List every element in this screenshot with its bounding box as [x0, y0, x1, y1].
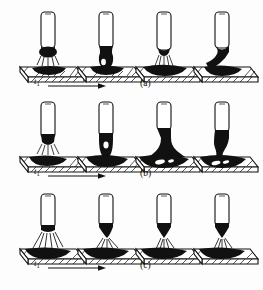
frame-a-3 — [130, 10, 194, 86]
frame-a-1 — [14, 10, 78, 86]
caption-line-b: t1 (b) — [0, 166, 263, 188]
frame-a-4 — [188, 10, 252, 86]
time-arrow-c — [48, 264, 110, 272]
sequence-row-a: t1 (a) — [0, 0, 263, 96]
frame-c-4 — [188, 192, 252, 268]
time-label-a: t1 — [34, 76, 40, 89]
time-label-c: t1 — [34, 258, 40, 271]
frame-b-2 — [72, 100, 136, 176]
frame-c-1 — [14, 192, 78, 268]
frame-b-3 — [130, 100, 194, 176]
frame-b-4 — [188, 100, 252, 176]
row-label-b: (b) — [140, 167, 151, 179]
frame-b-4-drawing — [188, 100, 262, 176]
time-arrow-b — [48, 172, 110, 180]
frame-c-2 — [72, 192, 136, 268]
frame-c-3 — [130, 192, 194, 268]
frame-a-2 — [72, 10, 136, 86]
welding-metal-transfer-figure: t1 (a) — [0, 0, 263, 290]
caption-line-c: t1 (c) — [0, 258, 263, 280]
sequence-row-c: t1 (c) — [0, 188, 263, 290]
sequence-row-b: t1 (b) — [0, 96, 263, 188]
frame-a-4-drawing — [188, 10, 262, 86]
time-label-b: t1 — [34, 166, 40, 179]
row-label-c: (c) — [140, 259, 151, 271]
time-arrow-a — [48, 82, 110, 90]
caption-line-a: t1 (a) — [0, 76, 263, 98]
frame-c-4-drawing — [188, 192, 262, 268]
row-label-a: (a) — [140, 77, 151, 89]
frame-b-1 — [14, 100, 78, 176]
